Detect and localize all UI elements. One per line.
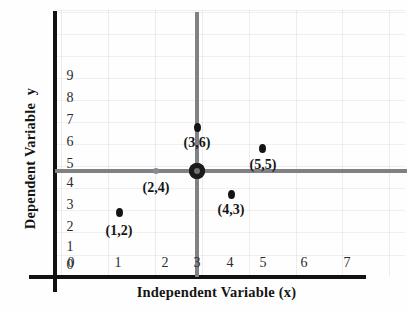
y-tick-label: 6 (62, 135, 78, 149)
x-tick-label: 5 (255, 256, 271, 270)
x-tick-label: 6 (296, 256, 312, 270)
x-tick-label: 4 (222, 256, 238, 270)
data-point-marker (259, 144, 266, 153)
x-tick-label: 3 (189, 256, 205, 270)
data-point-label: (1,2) (92, 224, 146, 238)
data-point-label: (3,6) (170, 136, 224, 150)
data-point-marker (194, 123, 201, 132)
scatter-plot-figure: 9 8 7 6 5 4 3 2 1 0 0 1 2 3 4 5 6 7 (1,2… (0, 0, 407, 313)
x-tick-label: 2 (157, 256, 173, 270)
x-tick-label: 1 (110, 256, 126, 270)
x-tick-label: 7 (339, 256, 355, 270)
y-tick-label: 9 (62, 69, 78, 83)
data-point-label: (2,4) (129, 181, 183, 195)
horizontal-reference-line (55, 169, 407, 173)
y-axis-line (53, 11, 57, 292)
y-axis-title: Dependent Variable y (22, 43, 39, 275)
data-point-marker (228, 190, 235, 199)
reference-intersection-marker (189, 163, 205, 179)
y-tick-label: 4 (62, 176, 78, 190)
data-point-label: (4,3) (204, 203, 258, 217)
data-point-marker (153, 168, 159, 174)
y-tick-label: 3 (62, 198, 78, 212)
data-point-marker (116, 208, 123, 217)
y-tick-label: 2 (62, 220, 78, 234)
data-point-label: (5,5) (236, 158, 290, 172)
x-tick-label: 0 (63, 256, 79, 270)
y-tick-label: 7 (62, 113, 78, 127)
y-tick-label: 1 (62, 240, 78, 254)
x-axis-title: Independent Variable (x) (74, 284, 359, 301)
y-tick-label: 5 (62, 157, 78, 171)
y-tick-label: 8 (62, 91, 78, 105)
